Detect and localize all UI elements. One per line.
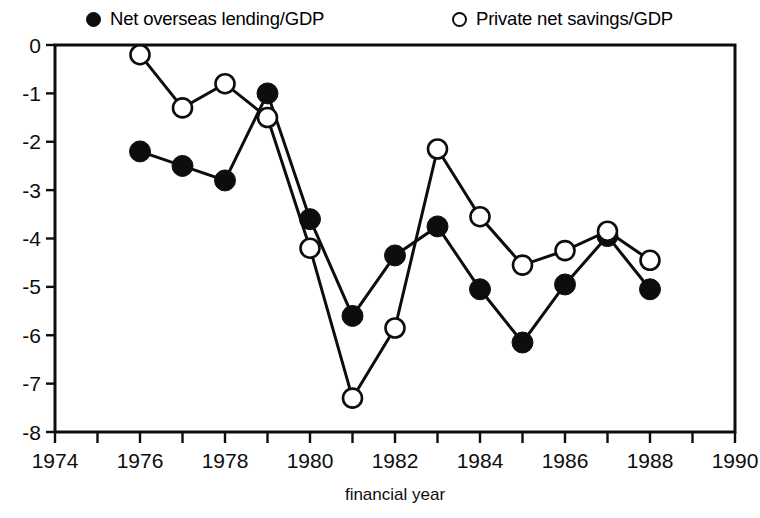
x-tick-label: 1980 (287, 449, 334, 472)
x-tick-label: 1976 (117, 449, 164, 472)
x-tick-label: 1982 (372, 449, 419, 472)
y-tick-label: -1 (22, 82, 41, 105)
data-point (555, 274, 576, 295)
data-point (641, 251, 660, 270)
line-chart-plot: 0-1-2-3-4-5-6-7-8 1974197619781980198219… (0, 0, 760, 518)
y-tick-label: -7 (22, 372, 41, 395)
x-tick-label: 1974 (32, 449, 79, 472)
data-point (258, 108, 277, 127)
data-point (342, 305, 363, 326)
x-tick-label: 1986 (542, 449, 589, 472)
data-point (471, 207, 490, 226)
data-point (216, 74, 235, 93)
data-point (386, 318, 405, 337)
data-point (427, 216, 448, 237)
data-point (513, 256, 532, 275)
data-point (173, 98, 192, 117)
series-lines (140, 55, 650, 398)
series-line-1 (140, 93, 650, 342)
data-point (131, 45, 150, 64)
x-axis-ticks (55, 432, 735, 443)
y-tick-label: -3 (22, 179, 41, 202)
data-point (385, 245, 406, 266)
data-point (428, 140, 447, 159)
x-axis-tick-labels: 197419761978198019821984198619881990 (32, 449, 759, 472)
y-tick-label: -6 (22, 324, 41, 347)
data-point (343, 389, 362, 408)
data-point (172, 155, 193, 176)
x-axis-title: financial year (345, 485, 446, 504)
x-tick-label: 1978 (202, 449, 249, 472)
x-tick-label: 1984 (457, 449, 504, 472)
y-tick-label: -4 (22, 227, 41, 250)
data-point (215, 170, 236, 191)
data-point (470, 279, 491, 300)
data-point (640, 279, 661, 300)
data-point (556, 241, 575, 260)
plot-axes (55, 45, 735, 432)
x-tick-label: 1988 (627, 449, 674, 472)
y-tick-label: -5 (22, 275, 41, 298)
series-points (130, 45, 661, 407)
data-point (598, 222, 617, 241)
chart-figure: Net overseas lending/GDP Private net sav… (0, 0, 760, 518)
y-tick-label: -8 (22, 421, 41, 444)
y-tick-label: -2 (22, 130, 41, 153)
data-point (512, 332, 533, 353)
y-tick-label: 0 (29, 34, 41, 57)
series-line-2 (140, 55, 650, 398)
x-tick-label: 1990 (712, 449, 759, 472)
data-point (257, 83, 278, 104)
data-point (301, 239, 320, 258)
y-axis-tick-labels: 0-1-2-3-4-5-6-7-8 (22, 34, 41, 444)
axis-frame (55, 45, 735, 432)
data-point (300, 209, 321, 230)
data-point (130, 141, 151, 162)
